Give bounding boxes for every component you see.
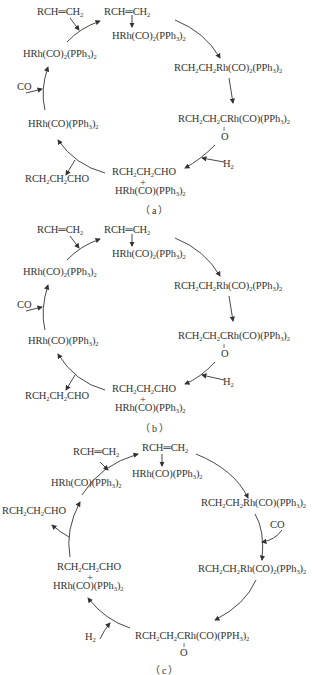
acyl-complex: RCH2CH2CRh(CO)(PPh3)2: [178, 114, 290, 125]
alkene-reactant: RCH═CH2: [37, 7, 83, 18]
unsaturated-complex: HRh(CO)(PPh3)2: [28, 336, 98, 347]
complex-top: HRh(CO)(PPh3)2: [132, 469, 202, 480]
complex-top: HRh(CO)2(PPh3)2: [112, 31, 186, 42]
catalytic-cycle-c: RCH═CH2 RCH═CH2 HRh(CO)(PPh3)2 HRh(CO)(P…: [0, 440, 322, 675]
panel-caption-b: （b）: [140, 420, 171, 435]
acyl-oxygen: O: [221, 132, 229, 143]
alkene-reactant: RCH═CH2: [37, 225, 83, 236]
alkyl-complex: RCH2CH2Rh(CO)2(PPh3)2: [174, 63, 282, 74]
catalyst-species: HRh(CO)(PPh3)2: [51, 478, 121, 489]
aldehyde-product-out: RCH2CH2CHO: [25, 174, 89, 185]
alkene-coordinated: RCH═CH2: [104, 7, 150, 18]
alkyl-complex: RCH2CH2Rh(CO)(PPh3)2: [201, 498, 306, 509]
aldehyde-product-out: RCH2CH2CHO: [25, 391, 89, 402]
h2-reagent: H2: [223, 159, 234, 170]
catalyst-species: HRh(CO)2(PPh3)2: [23, 267, 97, 278]
h2-reagent: H2: [85, 632, 96, 643]
complex-top: HRh(CO)2(PPh3)2: [112, 249, 186, 260]
acyl-complex: RCH2CH2CRh(CO)(PPH3)2: [135, 631, 249, 642]
released-complex: HRh(CO)(PPh3)2: [115, 186, 185, 197]
unsaturated-complex: HRh(CO)(PPh3)2: [28, 119, 98, 130]
acyl-oxygen: O: [221, 349, 229, 360]
co-reagent: CO: [270, 520, 284, 531]
alkyl-co-complex: RCH2CH2Rh(CO)2(PPh3)2: [198, 564, 306, 575]
co-reagent: CO: [17, 82, 31, 93]
alkene-reactant: RCH═CH2: [73, 447, 119, 458]
aldehyde-product-out: RCH2CH2CHO: [2, 506, 66, 517]
catalytic-cycle-a: RCH═CH2 RCH═CH2 HRh(CO)2(PPh3)2 HRh(CO)2…: [0, 0, 322, 220]
released-complex: HRh(CO)(PPh3)2: [53, 581, 123, 592]
catalytic-cycle-b: RCH═CH2 RCH═CH2 HRh(CO)2(PPh3)2 HRh(CO)2…: [0, 220, 322, 442]
catalyst-species: HRh(CO)2(PPh3)2: [23, 49, 97, 60]
panel-caption-a: （a）: [140, 202, 170, 217]
acyl-complex: RCH2CH2CRh(CO)(PPh3)2: [178, 331, 290, 342]
aldehyde-intermediate: RCH2CH2CHO: [112, 384, 176, 395]
released-complex: HRh(CO)(PPh3)2: [115, 403, 185, 414]
alkene-coordinated: RCH═CH2: [142, 443, 188, 454]
alkene-coordinated: RCH═CH2: [104, 225, 150, 236]
panel-caption-c: （c）: [150, 662, 180, 675]
aldehyde-intermediate: RCH2CH2CHO: [112, 167, 176, 178]
alkyl-complex: RCH2CH2Rh(CO)2(PPh3)2: [174, 281, 282, 292]
co-reagent: CO: [17, 300, 31, 311]
aldehyde-intermediate: RCH2CH2CHO: [57, 562, 121, 573]
h2-reagent: H2: [223, 377, 234, 388]
acyl-oxygen: O: [180, 648, 188, 659]
